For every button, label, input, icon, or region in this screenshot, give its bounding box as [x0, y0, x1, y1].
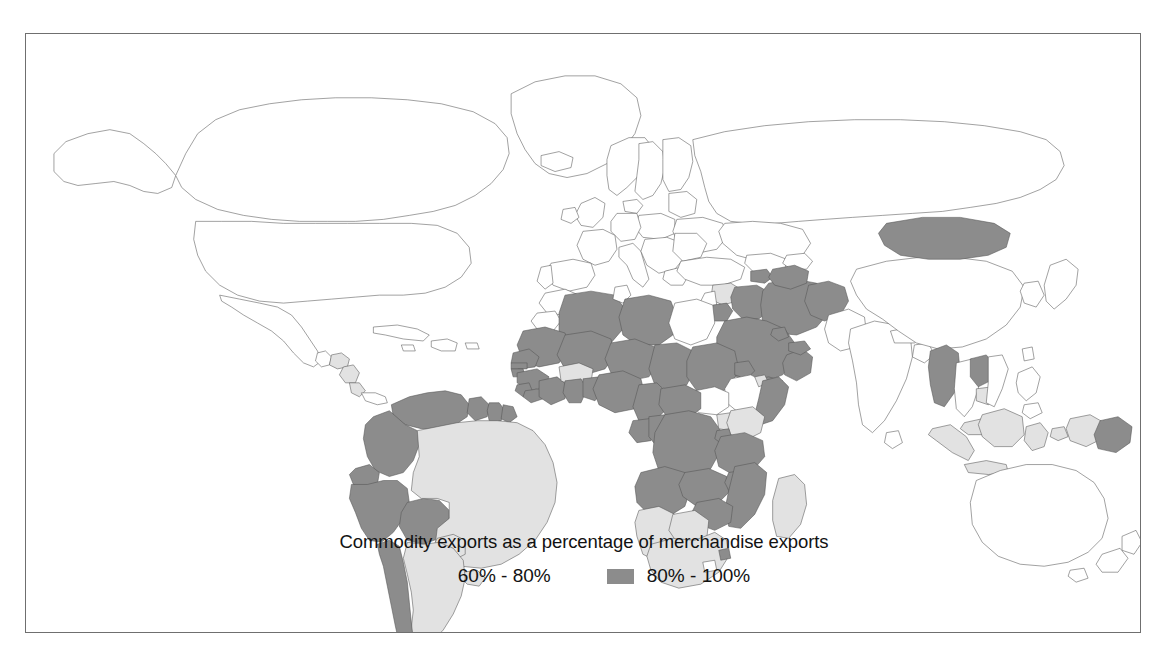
country-baltic-states[interactable]	[669, 191, 697, 217]
country-ireland[interactable]	[561, 207, 579, 223]
country-united-kingdom[interactable]	[575, 197, 605, 227]
country-mongolia[interactable]	[878, 217, 1010, 259]
country-france[interactable]	[577, 229, 617, 265]
country-peru[interactable]	[349, 481, 409, 543]
country-lesotho[interactable]	[703, 560, 717, 572]
country-russia[interactable]	[693, 120, 1064, 224]
country-panama[interactable]	[361, 393, 387, 405]
region-oceania	[970, 465, 1140, 583]
country-cuba[interactable]	[373, 325, 429, 341]
country-swaziland[interactable]	[719, 548, 731, 560]
country-finland[interactable]	[663, 138, 693, 192]
country-philippines-south[interactable]	[1022, 403, 1042, 419]
country-australia[interactable]	[970, 465, 1108, 567]
country-jamaica[interactable]	[401, 345, 415, 351]
region-asia	[825, 217, 1132, 474]
country-argentina[interactable]	[403, 542, 465, 632]
country-madagascar[interactable]	[773, 475, 807, 539]
world-choropleth-map	[26, 34, 1140, 632]
country-new-zealand-south[interactable]	[1096, 548, 1128, 572]
country-libya[interactable]	[619, 295, 677, 345]
country-hispaniola[interactable]	[431, 339, 457, 351]
country-japan[interactable]	[1044, 259, 1078, 309]
country-papua-new-guinea[interactable]	[1094, 417, 1132, 453]
country-puerto-rico[interactable]	[465, 343, 479, 349]
country-denmark[interactable]	[623, 199, 643, 213]
country-turkey[interactable]	[677, 257, 745, 285]
country-maluku[interactable]	[1050, 427, 1068, 441]
country-sulawesi[interactable]	[1024, 423, 1048, 451]
country-vietnam[interactable]	[986, 355, 1008, 407]
country-borneo[interactable]	[978, 409, 1024, 447]
figure-root: Commodity exports as a percentage of mer…	[0, 0, 1164, 660]
country-spain[interactable]	[545, 259, 595, 291]
country-alaska[interactable]	[54, 130, 176, 194]
country-egypt[interactable]	[669, 299, 715, 345]
country-sri-lanka[interactable]	[884, 431, 902, 449]
country-gambia[interactable]	[511, 363, 527, 369]
country-guatemala[interactable]	[315, 351, 331, 367]
country-mexico[interactable]	[220, 295, 322, 367]
country-portugal[interactable]	[537, 265, 553, 289]
country-philippines[interactable]	[1016, 367, 1040, 401]
region-russia-central-asia	[693, 120, 1064, 283]
country-north-south-korea[interactable]	[1020, 281, 1044, 307]
country-french-guiana[interactable]	[501, 405, 517, 423]
country-united-states[interactable]	[194, 221, 472, 303]
country-guyana[interactable]	[467, 397, 489, 421]
country-tasmania[interactable]	[1068, 568, 1088, 582]
country-taiwan[interactable]	[1022, 347, 1034, 361]
map-frame: Commodity exports as a percentage of mer…	[25, 33, 1141, 633]
region-central-america	[315, 325, 479, 405]
country-canada[interactable]	[176, 98, 509, 222]
country-new-zealand-north[interactable]	[1122, 530, 1140, 554]
country-sweden[interactable]	[635, 142, 665, 200]
region-south-america	[349, 391, 557, 632]
